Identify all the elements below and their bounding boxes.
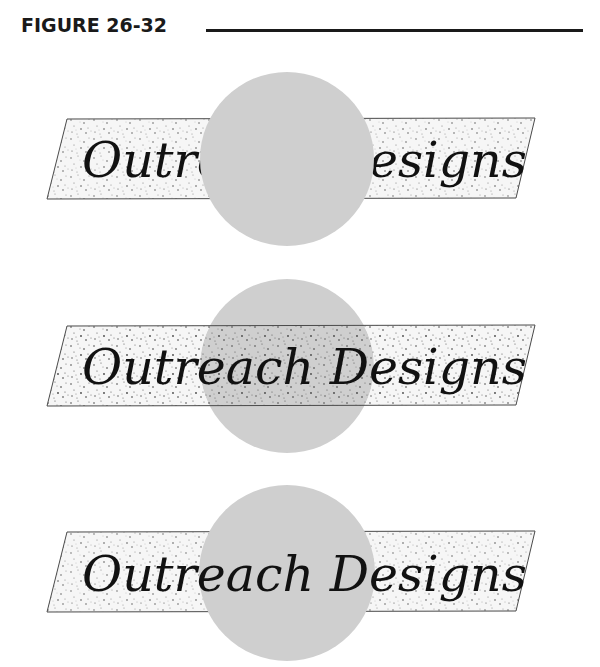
panel-2: Outreach Designs	[0, 267, 600, 467]
figure-label: FIGURE 26-32	[21, 14, 167, 36]
panel-1: Outreach Designs	[0, 60, 600, 260]
gray-circle	[200, 72, 374, 246]
panel-3: Outreach Designs	[0, 474, 600, 667]
header-rule	[206, 29, 583, 32]
banner-text: Outreach Designs	[82, 546, 527, 603]
banner-text: Outreach Designs	[82, 339, 527, 396]
